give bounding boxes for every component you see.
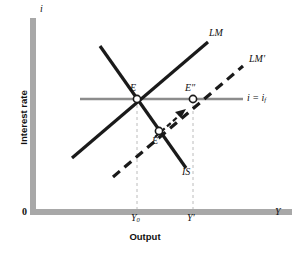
point-E-marker [133,95,140,102]
x-tick-y0-sub: 0 [137,216,140,223]
world-rate-base: i = i [247,92,264,103]
curve-label-lm-prime: LM′ [249,54,265,64]
is-lm-chart-svg [0,0,298,253]
x-tick-yprime-prime: ′ [193,212,195,223]
curve-label-lm: LM [209,28,223,38]
x-tick-label-y0: Y0 [131,213,140,224]
y-axis-title: Interest rate [18,73,29,163]
is-curve [100,46,186,168]
curve-label-is: IS [182,167,190,177]
x-axis-symbol: Y [275,207,281,217]
point-E-prime-marker [155,127,162,134]
point-label-E: E [130,83,136,93]
x-axis-title: Output [100,231,190,242]
point-E-double-prime-marker [189,95,196,102]
world-rate-sub: f [264,96,266,103]
x-tick-label-yprime: Y′ [187,213,195,223]
curve-label-world-rate: i = if [247,93,266,104]
origin-label: 0 [22,206,27,217]
point-label-E-prime: E′ [152,136,160,146]
point-label-E-double-prime: E″ [185,83,195,93]
is-lm-figure: i Y 0 Interest rate Output Y0 Y′ LM LM′ … [0,0,298,253]
y-axis-symbol: i [40,4,43,14]
